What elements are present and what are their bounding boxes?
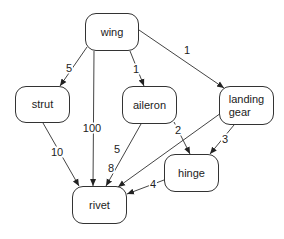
node-label: aileron bbox=[133, 99, 166, 112]
edge-label: 3 bbox=[221, 134, 229, 145]
node-hinge[interactable]: hinge bbox=[164, 154, 219, 192]
edge-label: 4 bbox=[149, 179, 157, 190]
edge-aileron-rivet bbox=[106, 124, 141, 186]
edge-label: 5 bbox=[113, 144, 121, 155]
edge-label: 5 bbox=[65, 63, 73, 74]
node-label: hinge bbox=[178, 167, 205, 180]
edge-label: 1 bbox=[183, 45, 191, 56]
edge-hinge-rivet bbox=[127, 180, 164, 194]
edge-wing-rivet bbox=[93, 51, 94, 186]
edge-wing-landing-gear bbox=[139, 30, 224, 88]
node-label: strut bbox=[32, 98, 53, 111]
node-label: landing gear bbox=[229, 93, 264, 119]
node-rivet[interactable]: rivet bbox=[72, 186, 127, 224]
edge-label: 1 bbox=[132, 64, 140, 75]
edge-label: 2 bbox=[174, 125, 182, 136]
edge-label: 8 bbox=[107, 163, 115, 174]
node-wing[interactable]: wing bbox=[85, 13, 139, 51]
node-strut[interactable]: strut bbox=[15, 86, 70, 123]
node-label: wing bbox=[101, 26, 124, 39]
node-landing-gear[interactable]: landing gear bbox=[219, 86, 274, 125]
node-aileron[interactable]: aileron bbox=[122, 86, 177, 124]
node-label: rivet bbox=[89, 199, 110, 212]
edge-label: 10 bbox=[50, 147, 64, 158]
edge-label: 100 bbox=[82, 123, 102, 134]
